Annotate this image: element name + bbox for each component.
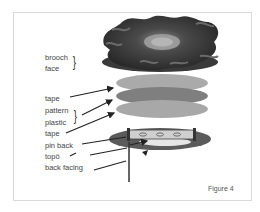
brooch-face [102, 16, 218, 72]
exploded-brooch-diagram [0, 0, 260, 212]
label-pin-back: pin back [45, 142, 73, 150]
label-tape-top: tape [45, 95, 60, 103]
label-back-facing: back facing [45, 164, 83, 172]
label-plastic: plastic [45, 119, 66, 127]
label-pattern: pattern [45, 107, 68, 115]
pin-back-assembly [109, 128, 211, 182]
label-topo: topö [45, 153, 60, 161]
label-tape-bottom: tape [45, 130, 60, 138]
label-face: face [45, 65, 59, 73]
figure-caption: Figure 4 [208, 185, 234, 192]
brace-pattern-plastic: } [74, 109, 77, 123]
label-brooch: brooch [45, 54, 68, 62]
plastic-tape-layer [116, 100, 208, 118]
brace-brooch-face: } [73, 55, 76, 69]
